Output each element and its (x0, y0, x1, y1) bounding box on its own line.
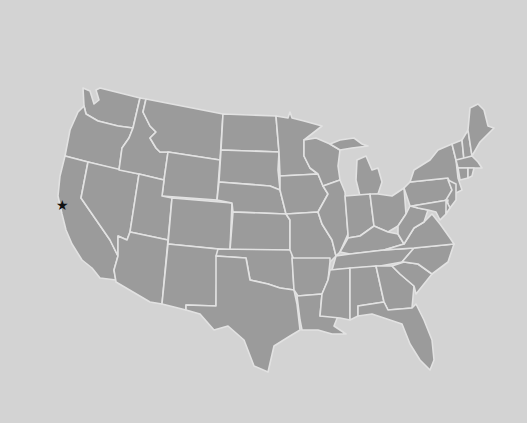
state-nd[interactable] (221, 114, 279, 152)
state-co[interactable] (168, 198, 232, 250)
state-mi-upper[interactable] (330, 138, 368, 150)
state-az[interactable] (114, 232, 168, 304)
state-ri[interactable] (468, 168, 474, 178)
state-fl[interactable] (358, 302, 434, 370)
states-layer (58, 88, 494, 372)
state-mi-lower[interactable] (356, 156, 382, 196)
state-me[interactable] (468, 104, 494, 156)
state-ct[interactable] (458, 168, 468, 180)
state-wy[interactable] (162, 152, 220, 200)
us-map: ★ (0, 0, 527, 423)
star-icon: ★ (56, 197, 69, 213)
state-ks[interactable] (230, 212, 290, 250)
state-nm[interactable] (162, 244, 218, 310)
